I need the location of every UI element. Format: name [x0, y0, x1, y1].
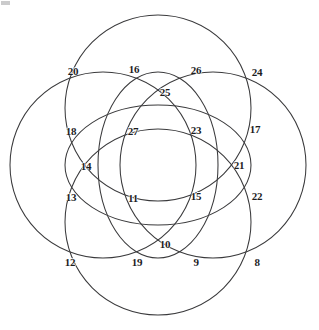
node-label-8: 8 — [254, 257, 259, 268]
circle-group — [10, 15, 306, 315]
bottom-circle — [65, 129, 251, 315]
node-label-23: 23 — [191, 125, 201, 136]
node-label-17: 17 — [250, 124, 260, 135]
top-circle — [65, 15, 251, 201]
node-label-26: 26 — [191, 65, 201, 76]
node-label-11: 11 — [128, 193, 138, 204]
inner-wide-ellipse — [65, 105, 251, 225]
node-label-16: 16 — [129, 64, 139, 75]
node-label-27: 27 — [128, 126, 138, 137]
node-label-18: 18 — [66, 126, 76, 137]
node-label-19: 19 — [132, 257, 142, 268]
node-label-24: 24 — [252, 67, 262, 78]
node-label-21: 21 — [234, 160, 244, 171]
node-label-9: 9 — [193, 257, 198, 268]
node-label-10: 10 — [160, 239, 170, 250]
node-label-20: 20 — [68, 66, 78, 77]
node-label-15: 15 — [191, 191, 201, 202]
right-circle — [120, 72, 306, 258]
node-label-12: 12 — [65, 257, 75, 268]
circles-diagram — [0, 0, 319, 330]
node-label-22: 22 — [252, 191, 262, 202]
left-circle — [10, 72, 196, 258]
node-label-13: 13 — [66, 192, 76, 203]
figure-canvas: 20162624251827231714211311152210121998 — [0, 0, 319, 330]
node-label-25: 25 — [160, 87, 170, 98]
inner-tall-ellipse — [98, 72, 218, 258]
node-label-14: 14 — [81, 161, 91, 172]
